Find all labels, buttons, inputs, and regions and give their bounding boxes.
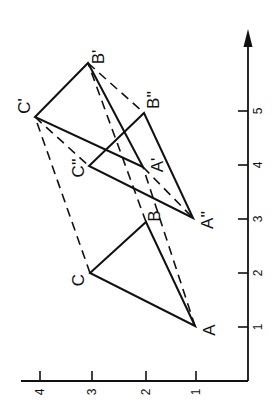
transformation-diagram: 1 2 3 4 5 1 2 3 4 A [0,0,276,414]
triangle-A1B1C1 [35,63,143,167]
y-tick-3: 3 [85,388,99,395]
x-axis-arrow-icon [244,29,253,47]
x-axis-ticks: 1 2 3 4 5 [238,107,265,330]
y-tick-4: 4 [33,388,47,395]
y-tick-2: 2 [139,388,153,395]
x-tick-3: 3 [251,215,265,222]
label-B: B [145,210,164,221]
label-A2: A'' [198,211,217,229]
label-C1: C' [15,98,34,114]
triangle-ABC [90,222,195,326]
point-labels: A B C A' B' C' A'' B'' C'' [15,50,219,336]
label-B1: B' [89,50,108,65]
link-A-A1 [143,167,195,326]
x-tick-2: 2 [251,269,265,276]
label-C: C [69,274,88,286]
link-C-C1 [35,117,90,273]
axes: 1 2 3 4 5 1 2 3 4 [21,29,265,395]
label-B2: B'' [144,91,163,109]
label-C2: C'' [69,159,88,178]
x-tick-4: 4 [251,161,265,168]
x-tick-1: 1 [251,323,265,330]
label-A: A [200,324,219,336]
label-A1: A' [148,158,167,173]
y-axis-ticks: 1 2 3 4 [33,371,203,395]
x-tick-5: 5 [251,107,265,114]
link-B-B1 [88,63,146,222]
y-tick-1: 1 [189,388,203,395]
triangles [35,63,195,326]
